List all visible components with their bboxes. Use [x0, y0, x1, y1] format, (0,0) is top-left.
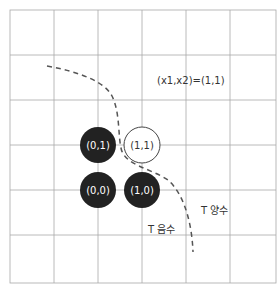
node-0-1: (0,1) [80, 127, 116, 163]
region-positive-label: T 양수 [200, 205, 228, 216]
decision-boundary-diagram: (0,1) (1,1) (0,0) (1,0) (x1,x2)=(1,1) T … [0, 0, 278, 293]
node-label: (1,1) [130, 140, 154, 151]
node-0-0: (0,0) [80, 172, 116, 208]
node-label: (0,1) [86, 140, 110, 151]
node-1-0: (1,0) [124, 172, 160, 208]
region-negative-label: T 음수 [147, 224, 175, 235]
point-annotation: (x1,x2)=(1,1) [157, 75, 225, 86]
node-1-1: (1,1) [124, 127, 160, 163]
node-label: (1,0) [130, 185, 154, 196]
node-label: (0,0) [86, 185, 110, 196]
